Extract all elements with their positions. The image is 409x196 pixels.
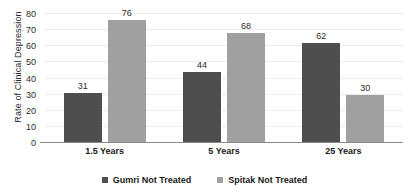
legend-swatch-icon [102,177,108,183]
y-axis-tick-label: 30 [26,90,36,100]
bars-layer: 317644686230 [45,14,403,143]
x-axis-category-labels: 1.5 Years5 Years25 Years [45,146,403,162]
y-axis-tick-labels: 01020304050607080 [0,14,41,143]
bar [64,93,102,143]
legend-swatch-icon [217,177,223,183]
bar [346,95,384,143]
bar [108,20,146,143]
y-axis-tick-label: 40 [26,74,36,84]
y-axis-tick-label: 70 [26,25,36,35]
bar-value-label: 31 [78,81,88,91]
y-axis-tick-label: 0 [31,138,36,148]
x-axis-category-label: 1.5 Years [85,146,124,156]
bar-value-label: 30 [360,83,370,93]
x-axis-line [40,142,403,143]
bar [227,33,265,143]
y-axis-tick-label: 10 [26,122,36,132]
bar-value-label: 44 [197,60,207,70]
x-axis-category-label: 5 Years [208,146,239,156]
legend-label: Spitak Not Treated [228,175,307,185]
bar-value-label: 76 [122,8,132,18]
y-axis-tick-label: 20 [26,106,36,116]
y-axis-tick-label: 50 [26,57,36,67]
y-axis-tick-label: 60 [26,41,36,51]
bar-chart: Rate of Clinical Depression 010203040506… [0,0,409,196]
bar-value-label: 68 [241,21,251,31]
legend-label: Gumri Not Treated [113,175,192,185]
y-axis-tick-label: 80 [26,9,36,19]
legend-item[interactable]: Spitak Not Treated [217,175,307,185]
legend-item[interactable]: Gumri Not Treated [102,175,192,185]
bar [183,72,221,143]
plot-area: 317644686230 [45,14,403,143]
bar [302,43,340,143]
chart-legend: Gumri Not TreatedSpitak Not Treated [0,175,409,185]
bar-value-label: 62 [316,31,326,41]
x-axis-category-label: 25 Years [325,146,361,156]
